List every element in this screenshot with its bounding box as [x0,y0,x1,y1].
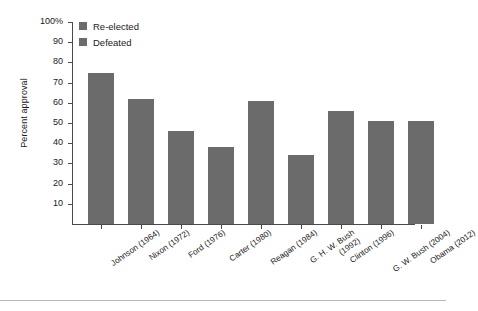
legend-swatch-icon [79,38,87,46]
footer-divider [0,300,446,301]
x-axis-tick-mark [301,225,302,229]
y-axis-tick: 40 [68,143,73,144]
bar[interactable] [288,155,314,224]
y-axis-tick-mark [68,22,73,23]
y-axis-tick-mark [68,83,73,84]
x-axis-tick-mark [381,225,382,229]
y-axis-tick: 60 [68,103,73,104]
legend-item[interactable]: Defeated [79,35,139,49]
y-axis-tick-mark [68,184,73,185]
x-axis-tick-label: Johnson (1964) [109,228,161,269]
y-axis-tick-mark [68,204,73,205]
legend-label: Defeated [93,37,132,48]
y-axis-tick-label: 20 [53,178,63,188]
y-axis-tick-mark [68,123,73,124]
y-axis-tick: 10 [68,204,73,205]
y-axis-tick-label: 60 [53,97,63,107]
y-axis-tick: 80 [68,62,73,63]
y-axis-tick-label: 40 [53,137,63,147]
y-axis-tick-label: 90 [53,36,63,46]
x-axis-tick-label: Carter (1980) [228,228,274,264]
legend-swatch-icon [79,22,87,30]
legend-label: Re-elected [93,21,139,32]
plot-area: 100%908070605040302010 [72,22,430,224]
legend-item[interactable]: Re-elected [79,19,139,33]
bar[interactable] [368,121,394,224]
bar[interactable] [128,99,154,224]
y-axis-tick: 20 [68,184,73,185]
bar[interactable] [408,121,434,224]
x-axis-tick-mark [341,225,342,229]
y-axis-tick-mark [68,163,73,164]
y-axis-tick-label: 80 [53,56,63,66]
x-axis-tick-mark [101,225,102,229]
y-axis-tick: 100% [68,22,73,23]
y-axis-tick-mark [68,103,73,104]
y-axis-tick-label: 100% [40,16,63,26]
y-axis-tick: 50 [68,123,73,124]
x-axis-tick-label: Ford (1976) [187,228,228,261]
y-axis-tick-label: 50 [53,117,63,127]
y-axis-tick: 70 [68,83,73,84]
y-axis-tick: 90 [68,42,73,43]
y-axis-tick-mark [68,42,73,43]
x-axis-tick-mark [261,225,262,229]
bar[interactable] [168,131,194,224]
y-axis-tick-label: 30 [53,157,63,167]
y-axis-tick-label: 10 [53,198,63,208]
chart-legend: Re-electedDefeated [79,19,139,51]
x-axis-tick-mark [141,225,142,229]
x-axis-tick-mark [181,225,182,229]
bar[interactable] [248,101,274,224]
y-axis-tick-mark [68,143,73,144]
y-axis-tick: 30 [68,163,73,164]
y-axis-tick-mark [68,62,73,63]
bar[interactable] [328,111,354,224]
bar[interactable] [88,73,114,225]
y-axis-title: Percent approval [19,48,29,178]
x-axis-tick-mark [421,225,422,229]
y-axis-tick-label: 70 [53,77,63,87]
bar[interactable] [208,147,234,224]
x-axis-line [72,224,415,225]
